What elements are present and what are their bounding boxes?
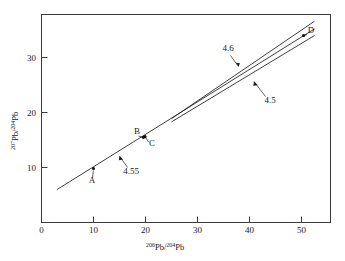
y-axis-title-post: Pb [10, 112, 20, 121]
figure-caption [6, 250, 339, 261]
data-point-d [302, 34, 305, 37]
annotation-455-label: 4.55 [123, 166, 139, 176]
x-axis-title-sup-204: 204 [166, 242, 175, 248]
annotation-460-label: 4.6 [222, 43, 234, 53]
annotation-450: 4.5 [253, 82, 276, 106]
data-point-label-a: A [89, 175, 96, 185]
x-tick-label-20: 20 [141, 225, 151, 235]
y-axis-title-mid: Pb/ [10, 129, 20, 141]
y-axis-title: 207Pb/204Pb [10, 112, 21, 150]
isochron-line-460 [172, 21, 315, 118]
data-point-label-c: C [149, 138, 155, 148]
y-axis-title-sup-207: 207 [10, 141, 16, 150]
x-axis-title-sup-206: 206 [146, 242, 155, 248]
figure-pb-pb-isochron: 0 10 20 30 40 50 10 20 30 206Pb/204Pb 20… [0, 0, 345, 261]
y-tick-label-20: 20 [27, 108, 37, 118]
x-tick-label-40: 40 [245, 225, 255, 235]
y-axis-ticks [42, 58, 48, 168]
x-tick-label-0: 0 [39, 225, 44, 235]
svg-text:207Pb/204Pb: 207Pb/204Pb [10, 112, 21, 150]
leader-line-b [139, 136, 142, 137]
data-point-a [92, 167, 95, 170]
y-axis-title-sup-204: 204 [10, 121, 16, 130]
y-tick-label-30: 30 [27, 53, 37, 63]
x-tick-label-30: 30 [193, 225, 203, 235]
data-point-c [143, 135, 146, 138]
y-tick-label-10: 10 [27, 163, 37, 173]
annotation-455: 4.55 [119, 156, 140, 176]
annotation-460: 4.6 [222, 43, 240, 67]
x-axis-ticks [42, 217, 302, 223]
data-point-label-b: B [134, 126, 140, 136]
x-tick-label-50: 50 [297, 225, 307, 235]
chart-canvas: 0 10 20 30 40 50 10 20 30 206Pb/204Pb 20… [0, 0, 345, 261]
annotation-450-arrowhead [253, 82, 257, 86]
x-tick-label-10: 10 [89, 225, 99, 235]
annotation-450-label: 4.5 [264, 95, 276, 105]
isochron-line-450 [172, 36, 315, 122]
data-point-label-d: D [308, 25, 315, 35]
annotation-455-arrowhead [119, 156, 123, 160]
